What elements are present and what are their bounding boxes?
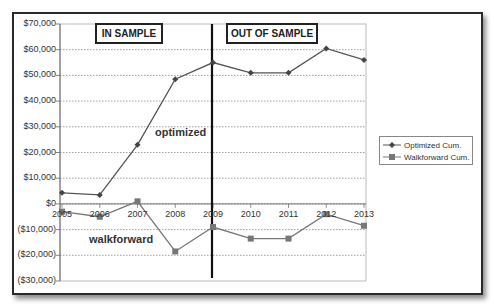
x-tick-label: 2013 [349, 209, 379, 219]
out-of-sample-label: OUT OF SAMPLE [226, 23, 318, 44]
diamond-marker-icon [383, 141, 401, 149]
y-tick-label: $40,000 [2, 95, 56, 105]
x-tick-label: 2010 [236, 209, 266, 219]
x-tick-label: 2007 [123, 209, 153, 219]
y-tick-label: $0 [2, 198, 56, 208]
x-tick-label: 2008 [160, 209, 190, 219]
x-tick-label: 2009 [198, 209, 228, 219]
walkforward-annotation: walkforward [89, 233, 153, 245]
legend: Optimized Cum. Walkforward Cum. [379, 136, 473, 165]
y-tick-label: $70,000 [2, 18, 56, 28]
legend-label: Optimized Cum. [404, 141, 461, 150]
x-tick-label: 2006 [85, 209, 115, 219]
legend-label: Walkforward Cum. [404, 153, 470, 162]
y-tick-label: ($20,000) [2, 249, 56, 259]
y-tick-label: $60,000 [2, 44, 56, 54]
y-tick-label: $20,000 [2, 147, 56, 157]
legend-item-walkforward: Walkforward Cum. [383, 151, 470, 163]
y-tick-label: ($30,000) [2, 275, 56, 285]
optimized-annotation: optimized [155, 126, 206, 138]
y-tick-label: ($10,000) [2, 224, 56, 234]
legend-item-optimized: Optimized Cum. [383, 139, 461, 151]
x-tick-label: 2012 [311, 209, 341, 219]
chart-figure: $70,000$60,000$50,000$40,000$30,000$20,0… [0, 0, 494, 306]
x-tick-label: 2011 [274, 209, 304, 219]
y-tick-label: $50,000 [2, 69, 56, 79]
in-sample-label: IN SAMPLE [95, 23, 163, 44]
y-tick-label: $10,000 [2, 172, 56, 182]
x-tick-label: 2005 [47, 209, 77, 219]
square-marker-icon [383, 153, 401, 161]
y-tick-label: $30,000 [2, 121, 56, 131]
